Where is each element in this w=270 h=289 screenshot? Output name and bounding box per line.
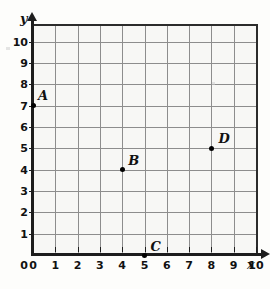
x-axis-label: x (247, 257, 255, 272)
y-axis-tick (29, 127, 34, 128)
gridline-horizontal (33, 191, 257, 192)
x-axis (31, 253, 263, 256)
y-tick-label: 6 (10, 121, 28, 134)
y-tick-label: 3 (10, 185, 28, 198)
data-point-label-d: D (218, 131, 229, 146)
gridline-vertical (234, 25, 235, 255)
data-point-label-a: A (38, 88, 48, 103)
y-axis (31, 20, 34, 256)
x-tick-label: 1 (46, 259, 64, 272)
x-axis-tick (189, 247, 190, 252)
y-tick-label: 9 (10, 57, 28, 70)
scan-artifact (212, 82, 215, 85)
y-axis-tick (29, 212, 34, 213)
gridline-horizontal (33, 63, 257, 64)
gridline-horizontal (33, 42, 257, 43)
gridline-horizontal (33, 127, 257, 128)
x-tick-label: 3 (91, 259, 109, 272)
x-axis-tick (145, 247, 146, 252)
y-axis-tick (29, 234, 34, 235)
y-axis-tick (29, 170, 34, 171)
gridline-vertical (189, 25, 190, 255)
plot-frame-top (32, 24, 258, 26)
x-axis-tick (122, 247, 123, 252)
x-axis-tick (234, 247, 235, 252)
gridline-horizontal (33, 148, 257, 149)
y-axis-tick (29, 63, 34, 64)
data-point-c (142, 253, 147, 258)
y-axis-tick (29, 42, 34, 43)
data-point-label-b: B (128, 153, 139, 168)
gridline-horizontal (33, 106, 257, 107)
gridline-vertical (78, 25, 79, 255)
gridline-horizontal (33, 212, 257, 213)
data-point-a (31, 103, 36, 108)
x-tick-label: 7 (180, 259, 198, 272)
coordinate-grid-figure: 012345678910123456789100 y x ABCD (0, 0, 270, 289)
scan-artifact (6, 47, 10, 50)
data-point-b (120, 167, 125, 172)
data-point-d (209, 146, 214, 151)
x-axis-tick (256, 247, 257, 252)
x-tick-label: 9 (225, 259, 243, 272)
y-axis-tick (29, 148, 34, 149)
x-tick-label: 5 (136, 259, 154, 272)
y-axis-tick (29, 84, 34, 85)
y-tick-label: 2 (10, 206, 28, 219)
x-tick-label: 4 (113, 259, 131, 272)
gridline-vertical (211, 25, 212, 255)
gridline-horizontal (33, 84, 257, 85)
x-axis-arrow-icon (261, 249, 270, 259)
x-axis-tick (100, 247, 101, 252)
x-axis-tick (211, 247, 212, 252)
x-tick-label: 2 (69, 259, 87, 272)
y-axis-label: y (20, 11, 28, 26)
y-axis-tick (29, 191, 34, 192)
y-tick-label: 1 (10, 228, 28, 241)
y-tick-label: 10 (10, 36, 28, 49)
x-tick-label: 6 (158, 259, 176, 272)
gridline-vertical (100, 25, 101, 255)
y-axis-arrow-icon (27, 12, 37, 21)
gridline-vertical (167, 25, 168, 255)
y-tick-label: 4 (10, 164, 28, 177)
gridline-vertical (55, 25, 56, 255)
gridline-vertical (122, 25, 123, 255)
plot-frame-right (256, 24, 258, 256)
x-axis-tick (78, 247, 79, 252)
origin-label: 0 (10, 259, 28, 272)
y-tick-label: 7 (10, 100, 28, 113)
gridline-vertical (145, 25, 146, 255)
x-axis-tick (55, 247, 56, 252)
y-tick-label: 8 (10, 78, 28, 91)
data-point-label-c: C (151, 239, 161, 254)
gridline-horizontal (33, 170, 257, 171)
gridline-horizontal (33, 234, 257, 235)
x-tick-label: 8 (202, 259, 220, 272)
y-tick-label: 5 (10, 142, 28, 155)
x-axis-tick (167, 247, 168, 252)
